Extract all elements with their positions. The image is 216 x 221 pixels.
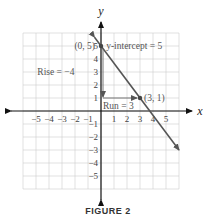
svg-text:3: 3 (94, 67, 99, 77)
svg-text:−4: −4 (88, 158, 98, 168)
svg-text:−2: −2 (70, 114, 80, 124)
svg-text:−5: −5 (31, 114, 41, 124)
svg-text:−3: −3 (88, 145, 98, 155)
coordinate-graph: xy −5−4−3−2−112345−5−4−3−2−112345 (0, 5)… (0, 0, 216, 221)
y-axis-label: y (97, 4, 104, 18)
svg-text:3: 3 (138, 114, 143, 124)
x-axis-label: x (196, 104, 203, 118)
annotation-rise: Rise = −4 (37, 67, 74, 77)
svg-text:−1: −1 (88, 119, 98, 129)
svg-text:2: 2 (125, 114, 130, 124)
svg-text:−5: −5 (88, 171, 98, 181)
point-label: (0, 5) (74, 41, 95, 52)
svg-text:1: 1 (94, 93, 99, 103)
svg-text:5: 5 (164, 114, 169, 124)
annotation-run: Run = 3 (103, 101, 134, 111)
figure-caption: FIGURE 2 (0, 206, 216, 216)
annotation-y-intercept: y-intercept = 5 (106, 41, 162, 51)
svg-text:2: 2 (94, 80, 99, 90)
svg-text:−4: −4 (44, 114, 54, 124)
point-label: (3, 1) (144, 93, 165, 104)
svg-text:−2: −2 (88, 132, 98, 142)
svg-text:1: 1 (112, 114, 117, 124)
svg-text:−3: −3 (57, 114, 67, 124)
plot-line (95, 37, 180, 150)
svg-text:4: 4 (94, 54, 99, 64)
